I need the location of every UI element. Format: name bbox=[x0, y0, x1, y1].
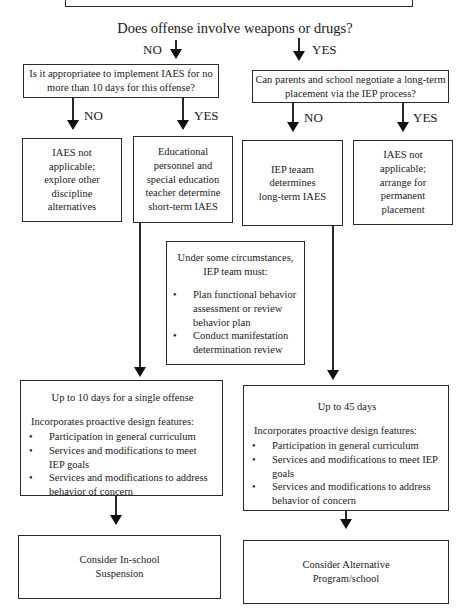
final-right-line1: Consider Alternative bbox=[302, 558, 389, 572]
iep-requirements-heading-1: Under some circumstances, bbox=[173, 251, 298, 265]
outcome-text: arrange for bbox=[380, 176, 426, 190]
iep-requirement-item: Conduct manifestation determination revi… bbox=[181, 329, 298, 356]
long-term-feature: Participation in general curriculum bbox=[260, 439, 440, 453]
left-no-label: NO bbox=[84, 108, 103, 124]
short-term-connector-line bbox=[139, 223, 141, 370]
outcome-right-yes-box: IAES not applicable; arrange for permane… bbox=[353, 140, 453, 225]
right-yes-arrow-icon bbox=[397, 122, 409, 132]
iep-requirement-item: Plan functional behavior assessment or r… bbox=[181, 288, 298, 329]
final-left-line bbox=[115, 496, 117, 516]
final-left-line1: Consider In-school bbox=[79, 553, 159, 567]
outcome-right-no-box: IEP teaam determines long-term IAES bbox=[242, 140, 343, 226]
long-term-connector-arrow-icon bbox=[327, 370, 339, 380]
short-term-box: Up to 10 days for a single offense Incor… bbox=[20, 380, 223, 496]
right-question-box: Can parents and school negotiate a long-… bbox=[252, 70, 449, 103]
left-no-line bbox=[72, 98, 74, 121]
outcome-text: IAES not bbox=[52, 146, 91, 160]
final-left-box: Consider In-school Suspension bbox=[18, 535, 221, 599]
final-right-line2: Program/school bbox=[313, 572, 380, 586]
outcome-text: placement bbox=[381, 203, 424, 217]
outcome-text: permanent bbox=[381, 189, 425, 203]
branch-yes-line bbox=[298, 38, 300, 52]
branch-yes-arrow-icon bbox=[293, 51, 305, 61]
outcome-text: personnel and bbox=[154, 159, 213, 173]
long-term-intro: Incorporates proactive design features: bbox=[254, 424, 440, 438]
left-question-line1: Is it appropriatee to implement IAES for… bbox=[29, 67, 212, 81]
outcome-text: alternatives bbox=[48, 200, 96, 214]
right-question-line2: placement via the IEP process? bbox=[285, 87, 416, 101]
outcome-text: applicable; bbox=[380, 162, 426, 176]
long-term-feature: Services and modifications to address be… bbox=[260, 480, 440, 507]
right-no-line bbox=[292, 103, 294, 123]
outcome-text: short-term IAES bbox=[148, 200, 218, 214]
branch-yes-label: YES bbox=[312, 42, 337, 58]
outcome-text: special education bbox=[147, 173, 220, 187]
outcome-text: applicable; bbox=[49, 160, 95, 174]
main-question: Does offense involve weapons or drugs? bbox=[0, 20, 470, 37]
left-yes-line bbox=[182, 98, 184, 121]
short-term-intro: Incorporates proactive design features: bbox=[31, 415, 214, 429]
outcome-text: Educational bbox=[158, 145, 208, 159]
right-yes-label: YES bbox=[413, 110, 438, 126]
outcome-text: teacher determine bbox=[146, 186, 221, 200]
iep-requirements-box: Under some circumstances, IEP team must:… bbox=[166, 241, 305, 365]
long-term-heading: Up to 45 days bbox=[254, 400, 440, 414]
outcome-left-yes-box: Educational personnel and special educat… bbox=[133, 136, 233, 223]
short-term-connector-arrow-icon bbox=[134, 367, 146, 377]
final-right-arrow-icon bbox=[340, 519, 352, 529]
left-yes-label: YES bbox=[194, 108, 219, 124]
right-yes-line bbox=[402, 103, 404, 123]
short-term-feature: Participation in general curriculum bbox=[37, 430, 214, 444]
outcome-left-no-box: IAES not applicable; explore other disci… bbox=[22, 138, 122, 222]
short-term-feature: Services and modifications to address be… bbox=[37, 471, 214, 498]
outcome-text: IAES not bbox=[383, 148, 422, 162]
long-term-feature: Services and modifications to meet IEP g… bbox=[260, 453, 440, 480]
short-term-heading: Up to 10 days for a single offense bbox=[31, 391, 214, 405]
branch-no-arrow-icon bbox=[170, 49, 182, 59]
short-term-feature: Services and modifications to meet IEP g… bbox=[37, 444, 214, 471]
left-no-arrow-icon bbox=[67, 120, 79, 130]
long-term-box: Up to 45 days Incorporates proactive des… bbox=[243, 385, 449, 511]
final-right-box: Consider Alternative Program/school bbox=[243, 540, 449, 604]
right-no-arrow-icon bbox=[287, 122, 299, 132]
outcome-text: discipline bbox=[52, 187, 93, 201]
left-yes-arrow-icon bbox=[177, 120, 189, 130]
long-term-connector-line bbox=[332, 226, 334, 373]
outcome-text: determines bbox=[269, 176, 315, 190]
right-no-label: NO bbox=[304, 110, 323, 126]
top-box-clipped bbox=[65, 0, 413, 7]
right-question-line1: Can parents and school negotiate a long-… bbox=[255, 73, 445, 87]
left-question-line2: more than 10 days for this offense? bbox=[47, 81, 195, 95]
outcome-text: long-term IAES bbox=[259, 190, 326, 204]
iep-requirements-heading-2: IEP team must: bbox=[173, 265, 298, 279]
branch-no-label: NO bbox=[143, 42, 162, 58]
final-left-arrow-icon bbox=[110, 515, 122, 525]
left-question-box: Is it appropriatee to implement IAES for… bbox=[23, 64, 219, 98]
outcome-text: explore other bbox=[44, 173, 100, 187]
final-left-line2: Suspension bbox=[96, 567, 144, 581]
outcome-text: IEP teaam bbox=[271, 163, 314, 177]
